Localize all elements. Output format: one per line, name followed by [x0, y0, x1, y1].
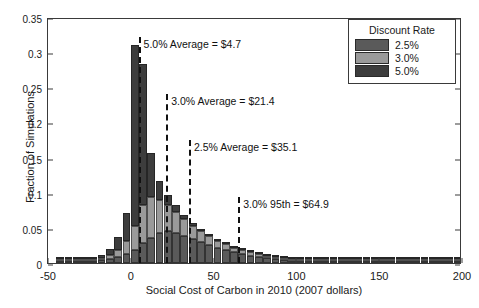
histogram-bar — [147, 153, 155, 263]
histogram-bar — [288, 257, 296, 263]
histogram-bar — [313, 259, 321, 263]
bar-segment-5-0% — [131, 45, 139, 226]
bar-segment-2-5% — [305, 261, 313, 263]
histogram-bar — [445, 262, 453, 263]
histogram-bar — [172, 205, 180, 263]
bar-segment-3-0% — [197, 231, 205, 242]
y-axis-label: Fraction of Simulations — [24, 62, 36, 232]
x-tick-mark — [379, 258, 380, 263]
y-tick-mark — [48, 229, 53, 230]
y-tick-label: 0.3 — [28, 49, 42, 60]
histogram-bar — [396, 262, 404, 263]
y-tick-mark — [455, 89, 460, 90]
bar-segment-2-5% — [437, 261, 445, 263]
y-tick-mark — [455, 194, 460, 195]
bar-segment-2-5% — [296, 261, 304, 263]
x-tick-mark — [213, 258, 214, 263]
histogram-bar — [387, 262, 395, 263]
bar-segment-5-0% — [114, 237, 122, 250]
bar-segment-2-5% — [454, 261, 460, 263]
bar-segment-3-0% — [180, 219, 188, 236]
bar-segment-2-5% — [156, 233, 164, 263]
bar-segment-2-5% — [421, 261, 429, 263]
bar-segment-2-5% — [222, 250, 230, 263]
x-tick-mark — [130, 258, 131, 263]
bar-segment-2-5% — [396, 261, 404, 263]
bar-segment-2-5% — [338, 261, 346, 263]
bar-segment-2-5% — [321, 261, 329, 263]
legend-item-2-5[interactable]: 2.5% — [355, 39, 449, 51]
histogram-bar — [214, 239, 222, 263]
bar-segment-3-0% — [205, 236, 213, 244]
bar-segment-3-0% — [114, 250, 122, 257]
histogram-bar — [131, 45, 139, 263]
bar-segment-2-5% — [354, 261, 362, 263]
bar-segment-5-0% — [156, 181, 164, 199]
x-tick-mark — [296, 258, 297, 263]
histogram-bar — [197, 229, 205, 263]
histogram-bar — [272, 255, 280, 263]
bar-segment-3-0% — [147, 197, 155, 238]
bar-segment-2-5% — [288, 261, 296, 263]
y-tick-mark — [48, 159, 53, 160]
y-tick-mark — [455, 124, 460, 125]
x-tick-label: 0 — [128, 270, 134, 282]
histogram-bar — [330, 260, 338, 263]
bar-segment-2-5% — [255, 257, 263, 263]
bar-segment-2-5% — [280, 260, 288, 263]
bar-segment-2-5% — [371, 261, 379, 263]
legend-label-3-0: 3.0% — [395, 53, 419, 64]
histogram-bar — [280, 256, 288, 263]
bar-segment-2-5% — [147, 238, 155, 263]
bar-segment-2-5% — [205, 245, 213, 263]
bar-segment-2-5% — [272, 259, 280, 263]
bar-segment-2-5% — [65, 261, 73, 263]
x-tick-label: 200 — [453, 270, 471, 282]
bar-segment-2-5% — [214, 248, 222, 263]
histogram-bar — [222, 242, 230, 263]
bar-segment-2-5% — [313, 261, 321, 263]
legend-swatch-2-5 — [355, 39, 389, 51]
x-tick-label: 100 — [287, 270, 305, 282]
bar-segment-2-5% — [89, 261, 97, 263]
histogram-bar — [412, 262, 420, 263]
histogram-bar — [73, 260, 81, 263]
histogram-bar — [404, 262, 412, 263]
bar-segment-3-0% — [156, 200, 164, 234]
y-tick-mark — [48, 194, 53, 195]
histogram-bar — [123, 213, 131, 263]
histogram-bar — [247, 250, 255, 263]
y-tick-label: 0 — [36, 260, 42, 271]
y-tick-mark — [48, 124, 53, 125]
bar-segment-2-5% — [73, 261, 81, 263]
bar-segment-2-5% — [114, 257, 122, 263]
histogram-bar — [379, 261, 387, 263]
legend-item-5-0[interactable]: 5.0% — [355, 65, 449, 77]
histogram-bar — [437, 262, 445, 263]
histogram-bar — [81, 259, 89, 263]
histogram-bar — [371, 261, 379, 263]
bar-segment-2-5% — [172, 233, 180, 263]
y-tick-mark — [455, 265, 460, 266]
bar-segment-2-5% — [81, 261, 89, 263]
y-tick-label: 0.35 — [23, 14, 42, 25]
histogram-bar — [65, 261, 73, 263]
bar-segment-2-5% — [330, 261, 338, 263]
y-tick-mark — [48, 265, 53, 266]
bar-segment-2-5% — [379, 261, 387, 263]
bar-segment-2-5% — [363, 261, 371, 263]
bar-segment-2-5% — [131, 250, 139, 263]
x-tick-label: 50 — [207, 270, 219, 282]
y-tick-mark — [48, 54, 53, 55]
annotation-line-avg-5 — [139, 37, 141, 263]
scc-histogram-figure: 00.050.10.150.20.250.30.35 -500501001502… — [0, 0, 479, 308]
bar-segment-2-5% — [180, 236, 188, 263]
legend-item-3-0[interactable]: 3.0% — [355, 52, 449, 64]
bar-segment-2-5% — [346, 261, 354, 263]
histogram-bar — [255, 252, 263, 263]
histogram-bar — [114, 237, 122, 263]
bar-segment-3-0% — [131, 226, 139, 249]
bar-segment-2-5% — [429, 261, 437, 263]
y-tick-mark — [455, 229, 460, 230]
annotation-line-p95-3 — [238, 197, 240, 263]
